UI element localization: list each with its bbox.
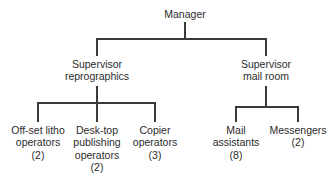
node-mail-assistants-count: (8) <box>213 149 260 161</box>
node-copier-operators-count: (3) <box>133 149 177 161</box>
node-copier-operators: Copier operators (3) <box>133 124 177 161</box>
node-mail-assistants-line-1: Mail <box>213 124 260 136</box>
node-copier-operators-line-1: Copier <box>133 124 177 136</box>
node-supervisor-reprographics: Supervisor reprographics <box>65 58 129 83</box>
organizational-chart: Manager Supervisor reprographics Supervi… <box>0 0 336 185</box>
node-desktop-publishing-operators-count: (2) <box>73 161 120 173</box>
node-supervisor-reprographics-line-2: reprographics <box>65 70 129 82</box>
node-offset-litho-operators-count: (2) <box>11 149 65 161</box>
node-desktop-publishing-operators-line-3: operators <box>73 149 120 161</box>
node-supervisor-mail-room: Supervisor mail room <box>241 58 291 83</box>
node-messengers: Messengers (2) <box>269 124 326 149</box>
node-supervisor-reprographics-line-1: Supervisor <box>65 58 129 70</box>
node-mail-assistants-line-2: assistants <box>213 136 260 148</box>
node-messengers-line-1: Messengers <box>269 124 326 136</box>
node-mail-assistants: Mail assistants (8) <box>213 124 260 161</box>
node-supervisor-mail-room-line-1: Supervisor <box>241 58 291 70</box>
node-desktop-publishing-operators-line-2: publishing <box>73 136 120 148</box>
node-messengers-count: (2) <box>269 136 326 148</box>
node-supervisor-mail-room-line-2: mail room <box>241 70 291 82</box>
node-offset-litho-operators-line-1: Off-set litho <box>11 124 65 136</box>
node-copier-operators-line-2: operators <box>133 136 177 148</box>
node-offset-litho-operators: Off-set litho operators (2) <box>11 124 65 161</box>
node-manager: Manager <box>164 8 205 20</box>
node-desktop-publishing-operators: Desk-top publishing operators (2) <box>73 124 120 174</box>
node-offset-litho-operators-line-2: operators <box>11 136 65 148</box>
node-desktop-publishing-operators-line-1: Desk-top <box>73 124 120 136</box>
node-manager-line-1: Manager <box>164 8 205 20</box>
